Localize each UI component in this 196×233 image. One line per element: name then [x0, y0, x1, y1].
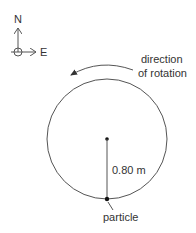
- rotation-label-line2: of rotation: [138, 67, 187, 79]
- rotation-arrow-icon: [71, 65, 133, 75]
- particle-leader-line: [108, 202, 113, 210]
- particle-label: particle: [103, 211, 138, 223]
- compass: N E: [11, 13, 47, 58]
- particle-dot: [105, 197, 109, 201]
- rotation-label-line1: direction: [141, 53, 183, 65]
- north-label: N: [14, 13, 22, 25]
- east-label: E: [40, 46, 47, 58]
- diagram: N E direction of rotation 0.80 m particl…: [0, 0, 196, 233]
- radius-label: 0.80 m: [112, 164, 146, 176]
